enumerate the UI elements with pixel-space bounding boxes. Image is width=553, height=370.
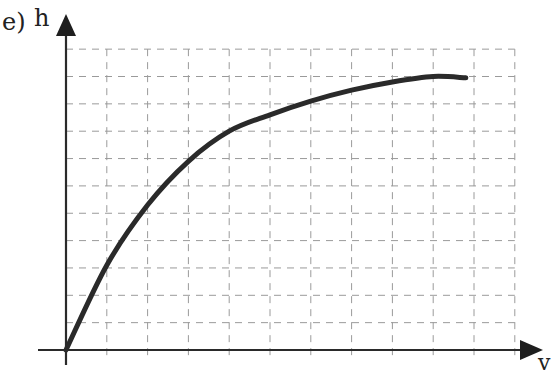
- y-axis: [56, 14, 76, 365]
- x-axis-label: v: [538, 352, 550, 370]
- grid-lines: [66, 49, 515, 358]
- graph-figure: [0, 0, 553, 370]
- y-axis-arrow-icon: [56, 14, 76, 36]
- panel-label: e): [2, 10, 26, 34]
- x-axis: [38, 340, 543, 360]
- y-axis-label: h: [34, 6, 49, 30]
